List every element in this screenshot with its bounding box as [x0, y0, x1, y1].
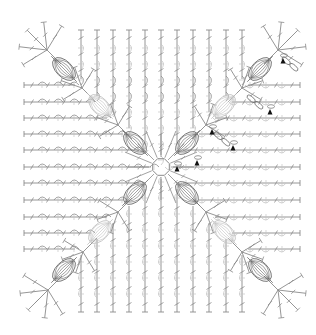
stitch-column-bottom [174, 189, 180, 312]
stitch-column-bottom [110, 223, 116, 312]
stitch-row-right [181, 180, 300, 186]
triangle-marker-icon [268, 109, 273, 115]
shell-cluster [242, 252, 279, 289]
stitch-column-top [239, 30, 245, 85]
triangle-marker-icon [231, 145, 236, 151]
stitch-column-bottom [142, 189, 148, 312]
magic-ring [153, 159, 170, 176]
stitch-column-top [142, 30, 148, 149]
stitch-column-bottom [94, 239, 100, 312]
corner-fan [20, 273, 65, 318]
stitch-row-left [24, 246, 79, 252]
stitch-row-left [24, 99, 95, 105]
stitch-column-top [126, 30, 132, 133]
vertical-stitch-columns [78, 30, 245, 312]
stitch-column-top [190, 30, 196, 133]
stitch-column-bottom [223, 239, 229, 312]
stitch-row-right [229, 99, 300, 105]
stitch-column-top [223, 30, 229, 101]
stitch-row-right [229, 230, 300, 236]
stitch-row-left [24, 82, 79, 88]
triangle-marker-icon [281, 58, 286, 64]
corner-fan [261, 273, 306, 318]
stitch-row-right [245, 246, 300, 252]
stitch-column-top [174, 30, 180, 149]
stitch-column-top [94, 30, 100, 101]
triangle-marker-icon [195, 160, 200, 166]
diagonal-fan [228, 66, 264, 102]
stitch-row-left [24, 131, 127, 137]
stitch-column-bottom [206, 223, 212, 312]
chart-canvas [0, 0, 316, 335]
stitch-row-right [197, 197, 300, 203]
stitch-row-left [24, 230, 95, 236]
stitch-row-left [24, 180, 143, 186]
stitch-column-top [78, 30, 84, 85]
stitch-column-bottom [239, 255, 245, 312]
stitch-column-bottom [190, 206, 196, 312]
stitch-row-right [245, 82, 300, 88]
stitch-row-left [24, 197, 127, 203]
stitch-column-top [206, 30, 212, 117]
chain-loop [281, 56, 299, 72]
stitch-column-bottom [126, 206, 132, 312]
crochet-chart: Crochet square motif chart [0, 0, 316, 335]
stitch-row-right [181, 147, 300, 153]
